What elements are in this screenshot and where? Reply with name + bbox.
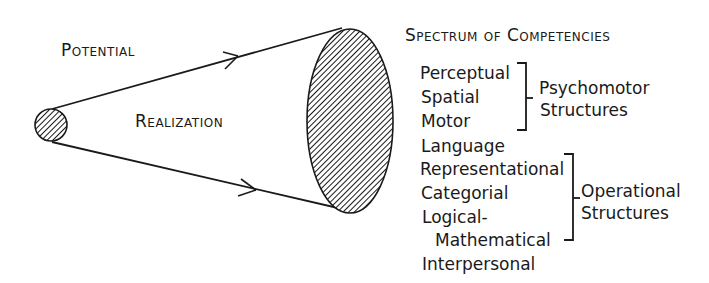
item-logical: Logical- <box>422 209 488 226</box>
cone-bottom-edge <box>52 142 338 208</box>
spectrum-title: Spectrum of Competencies <box>405 27 610 44</box>
item-representational: Representational <box>420 161 564 178</box>
potential-origin-circle <box>35 109 67 141</box>
realization-label: Realization <box>135 113 223 130</box>
item-perceptual: Perceptual <box>420 65 510 82</box>
item-spatial: Spatial <box>421 89 480 106</box>
operational-label-line2: Structures <box>581 205 669 222</box>
item-language: Language <box>421 138 505 155</box>
item-motor: Motor <box>421 113 470 130</box>
item-interpersonal: Interpersonal <box>422 256 535 273</box>
operational-label-line1: Operational <box>581 183 681 200</box>
item-mathematical: Mathematical <box>435 232 551 249</box>
item-categorial: Categorial <box>421 185 508 202</box>
potential-label: Potential <box>61 42 135 59</box>
psychomotor-label-line2: Structures <box>540 102 628 119</box>
psychomotor-label-line1: Psychomotor <box>539 80 649 97</box>
operational-bracket <box>564 154 580 240</box>
spectrum-ellipse <box>307 29 393 213</box>
psychomotor-bracket <box>517 63 533 130</box>
